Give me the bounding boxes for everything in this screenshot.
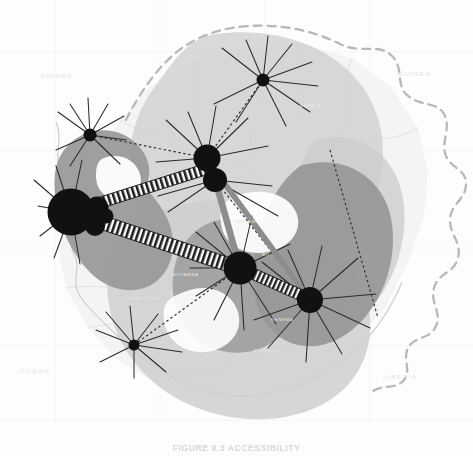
node-kenema[interactable] [297, 287, 323, 313]
map-label-interior-place-4: PUJEHUN [254, 348, 279, 353]
map-label-interior-place-7: MOYAMBA [172, 272, 199, 277]
map-label-guinea-north: GUINEA [40, 72, 73, 79]
map-label-interior-place-1: MAKENI [236, 219, 258, 224]
figure-container: GUINEAGUINEALIBERIAOCEANMAKENIBOKENEMAPU… [0, 0, 473, 456]
node-hastings[interactable] [99, 209, 114, 224]
map-label-guinea-east: GUINEA [398, 70, 431, 77]
map-label-interior-place-3: KENEMA [271, 317, 293, 322]
map-label-interior-place-6: PORT LOKO [128, 296, 159, 301]
map-label-interior-place-5: KABALA [300, 103, 321, 108]
figure-caption-text: FIGURE 9.3 ACCESSIBILITY [0, 442, 473, 454]
map-label-interior-place-2: BO [262, 252, 270, 257]
node-bo[interactable] [224, 252, 257, 285]
node-kabala[interactable] [257, 74, 270, 87]
map-label-atlantic-ocean: OCEAN [20, 367, 50, 374]
node-makeni[interactable] [194, 145, 221, 172]
accessibility-map: GUINEAGUINEALIBERIAOCEANMAKENIBOKENEMAPU… [0, 0, 473, 456]
node-portloko[interactable] [84, 129, 97, 142]
figure-caption: FIGURE 9.3 ACCESSIBILITY [0, 442, 473, 456]
node-magburaka[interactable] [203, 168, 227, 192]
node-moyamba[interactable] [129, 340, 140, 351]
map-label-liberia-southeast: LIBERIA [383, 373, 418, 380]
